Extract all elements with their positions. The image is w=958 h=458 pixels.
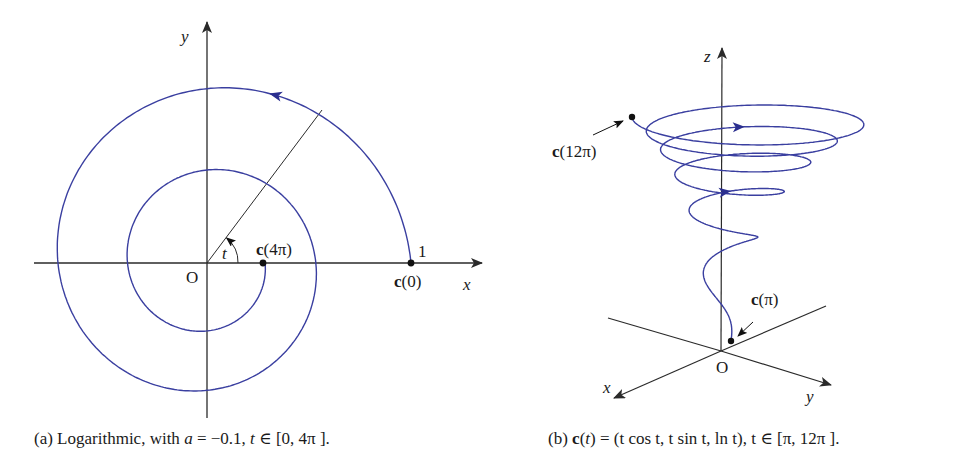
c4pi-label: c(4π) bbox=[256, 240, 292, 259]
origin-label-3d: O bbox=[716, 358, 728, 377]
caption-a: (a) Logarithmic, with a = −0.1, t ∈ [0, … bbox=[34, 428, 330, 449]
unit-tick-label: 1 bbox=[418, 242, 427, 261]
c0-label: c(0) bbox=[394, 272, 421, 291]
x-axis-label: x bbox=[462, 275, 471, 294]
caption-b: (b) c(t) = (t cos t, t sin t, ln t), t ∈… bbox=[548, 428, 840, 449]
c12pi-label: c(12π) bbox=[552, 142, 596, 161]
z-axis-label: z bbox=[703, 47, 711, 66]
point-cpi bbox=[728, 338, 734, 344]
origin-label: O bbox=[186, 268, 198, 287]
x-axis-front bbox=[614, 351, 721, 398]
x-axis-back bbox=[608, 318, 721, 351]
panel-a-logarithmic-spiral: y x O t 1 c(0) c(4π) bbox=[34, 22, 482, 418]
point-c12pi bbox=[629, 114, 635, 120]
point-c4pi bbox=[260, 260, 267, 267]
y-axis-label-3d: y bbox=[804, 387, 814, 406]
pointer-c12pi bbox=[593, 121, 623, 135]
point-c0 bbox=[408, 260, 415, 267]
y-axis-label: y bbox=[179, 27, 189, 46]
figure-canvas: y x O t 1 c(0) c(4π) z x y O c(12π) bbox=[0, 0, 958, 458]
angle-label: t bbox=[222, 244, 228, 263]
y-axis-front bbox=[721, 351, 831, 385]
y-axis-back bbox=[721, 306, 826, 351]
conical-spiral-curve bbox=[632, 105, 864, 341]
x-axis-label-3d: x bbox=[602, 378, 611, 397]
angle-arc bbox=[227, 238, 239, 263]
cpi-label: c(π) bbox=[751, 290, 778, 309]
logarithmic-spiral-curve bbox=[57, 88, 411, 391]
pointer-cpi bbox=[738, 322, 753, 336]
panel-b-conical-spiral: z x y O c(12π) c(π) bbox=[552, 47, 864, 406]
